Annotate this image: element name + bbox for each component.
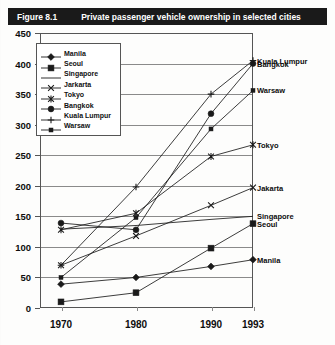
- x-axis-tick-label: 1970: [50, 319, 72, 330]
- asterisk-marker: [40, 90, 62, 100]
- legend-item-warsaw[interactable]: Warsaw: [40, 121, 117, 131]
- small-square-marker: [40, 121, 62, 131]
- horizontal-gridline: [41, 155, 252, 156]
- horizontal-gridline: [41, 186, 252, 187]
- legend-item-label: Seoul: [64, 60, 83, 67]
- legend-item-singapore[interactable]: Singapore: [40, 69, 117, 79]
- y-axis-tick-label: 250: [15, 150, 31, 161]
- y-axis-tick-label: 0: [26, 303, 31, 314]
- chart-legend: ManilaSeoulSingaporeJarkartaTokyoBangkok…: [36, 43, 121, 136]
- y-axis-tick-label: 50: [20, 272, 31, 283]
- series-end-label-tokyo: Tokyo: [257, 140, 279, 149]
- y-axis-tick-label: 100: [15, 241, 31, 252]
- horizontal-gridline: [41, 247, 252, 248]
- series-end-label-bangkok: Bangkok: [257, 59, 289, 68]
- diamond-marker: [40, 48, 62, 58]
- horizontal-gridline: [41, 216, 252, 217]
- legend-item-jarkarta[interactable]: Jarkarta: [40, 79, 117, 89]
- y-axis-tick-label: 200: [15, 180, 31, 191]
- circle-marker: [40, 100, 62, 110]
- legend-item-bangkok[interactable]: Bangkok: [40, 100, 117, 110]
- legend-item-kuala-lumpur[interactable]: Kuala Lumpur: [40, 110, 117, 120]
- plus-marker: [40, 111, 62, 121]
- series-end-label-seoul: Seoul: [257, 219, 277, 228]
- series-end-label-manila: Manila: [257, 255, 280, 264]
- y-axis-tick-label: 300: [15, 119, 31, 130]
- legend-item-label: Jarkarta: [64, 81, 91, 88]
- legend-item-seoul[interactable]: Seoul: [40, 58, 117, 68]
- figure-title: Private passenger vehicle ownership in s…: [81, 12, 301, 22]
- y-axis: 450400350300250200150100500: [0, 33, 40, 308]
- legend-item-label: Tokyo: [64, 91, 84, 98]
- legend-item-label: Bangkok: [64, 102, 94, 109]
- y-axis-tick-label: 150: [15, 211, 31, 222]
- figure-title-bar: Figure 8.1 Private passenger vehicle own…: [8, 8, 327, 25]
- y-axis-tick-label: 350: [15, 89, 31, 100]
- square-marker: [40, 59, 62, 69]
- x-axis-tick-label: 1990: [200, 319, 222, 330]
- horizontal-gridline: [41, 277, 252, 278]
- x-axis: 1970198019901993: [40, 308, 253, 338]
- legend-item-tokyo[interactable]: Tokyo: [40, 90, 117, 100]
- legend-item-manila[interactable]: Manila: [40, 48, 117, 58]
- x-axis-tick-label: 1993: [242, 319, 264, 330]
- legend-item-label: Singapore: [64, 70, 98, 77]
- series-end-label-warsaw: Warsaw: [257, 86, 285, 95]
- legend-item-label: Warsaw: [64, 122, 90, 129]
- figure-container: Figure 8.1 Private passenger vehicle own…: [0, 0, 335, 345]
- line-marker: [40, 69, 62, 79]
- figure-number: Figure 8.1: [17, 12, 57, 22]
- y-axis-tick-label: 450: [15, 28, 31, 39]
- legend-item-label: Kuala Lumpur: [64, 112, 111, 119]
- series-end-label-jakarta: Jakarta: [257, 183, 283, 192]
- legend-item-label: Manila: [64, 50, 86, 57]
- x-axis-tick-mark: [254, 307, 255, 311]
- y-axis-tick-label: 400: [15, 58, 31, 69]
- x-marker: [40, 79, 62, 89]
- x-axis-tick-label: 1980: [125, 319, 147, 330]
